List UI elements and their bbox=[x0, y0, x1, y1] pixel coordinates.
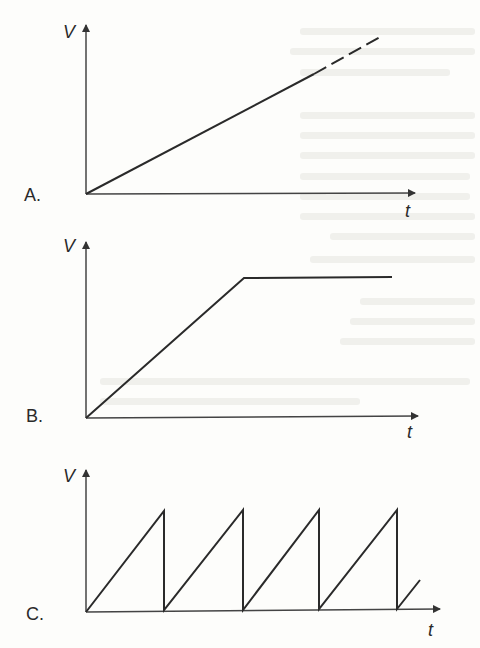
panel-a: V t A. bbox=[24, 22, 415, 221]
velocity-time-graphs: V t A. V t B. V t C. bbox=[0, 0, 480, 648]
panel-a-dashed-line bbox=[314, 37, 380, 74]
panel-a-t-label: t bbox=[405, 201, 411, 221]
panel-c-t-axis bbox=[86, 609, 440, 612]
panel-b-line bbox=[86, 277, 392, 418]
panel-c: V t C. bbox=[26, 466, 440, 640]
panel-b-t-label: t bbox=[407, 422, 413, 442]
panel-c-sawtooth bbox=[86, 510, 420, 612]
panel-a-v-label: V bbox=[63, 22, 77, 42]
panel-b-t-axis bbox=[86, 416, 418, 418]
panel-b: V t B. bbox=[26, 236, 418, 442]
panel-c-v-label: V bbox=[63, 466, 77, 486]
panel-a-label: A. bbox=[24, 185, 41, 205]
panel-b-label: B. bbox=[26, 406, 43, 426]
panel-a-solid-line bbox=[86, 74, 314, 194]
panel-a-t-axis bbox=[86, 193, 415, 194]
panel-c-t-label: t bbox=[428, 620, 434, 640]
panel-b-v-label: V bbox=[63, 236, 77, 256]
panel-c-label: C. bbox=[26, 604, 44, 624]
